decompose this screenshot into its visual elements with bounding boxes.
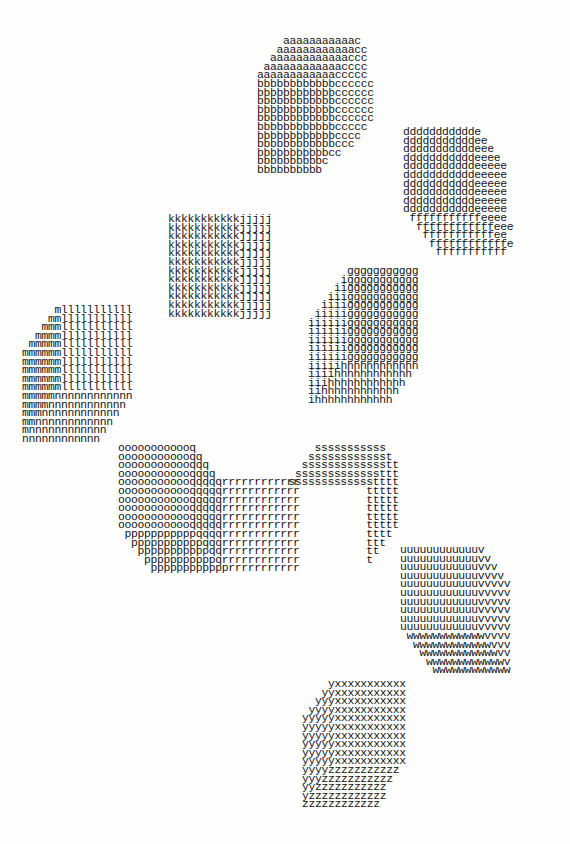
letter-row: kkkkkkkkkkkjjjjj — [168, 310, 272, 319]
letter-row: bbbbbbbbbb — [257, 166, 374, 175]
letter-row: pppppppppppprrrrrrrrrrr — [118, 564, 300, 573]
typewriter-art-page: aaaaaaaaaaac aaaaaaaaaaaacc aaaaaaaaaaaa… — [0, 0, 570, 844]
letter-row: ihhhhhhhhhhhh — [308, 396, 418, 405]
letter-row: wwwwwwwwwwww — [400, 666, 510, 675]
letter-block-mln: mlllllllllll mmlllllllllll mmmllllllllll… — [22, 306, 132, 444]
letter-block-gih: ggggggggggg iggggggggggg iiggggggggggg i… — [308, 267, 418, 405]
letter-row: fffffffffff — [403, 248, 513, 257]
letter-row: nnnnnnnnnnnn — [22, 435, 132, 444]
letter-row: zzzzzzzzzzzz — [302, 800, 406, 809]
letter-block-uvw: uuuuuuuuuuuuvuuuuuuuuuuuuvvuuuuuuuuuuuuv… — [400, 546, 510, 675]
letter-block-def: dddddddddddedddddddddddeedddddddddddeeed… — [403, 128, 513, 257]
letter-block-oqpr: oooooooooooqoooooooooooqqoooooooooooqqqo… — [118, 444, 300, 573]
letter-row: t — [282, 556, 399, 565]
letter-block-st: sssssssssss sssssssssssst ssssssssssssst… — [282, 444, 399, 564]
letter-block-kj: kkkkkkkkkkkjjjjjkkkkkkkkkkkjjjjjkkkkkkkk… — [168, 215, 272, 318]
letter-block-yxz: yxxxxxxxxxxx yyxxxxxxxxxxx yyyxxxxxxxxxx… — [302, 680, 406, 809]
letter-block-abc: aaaaaaaaaaac aaaaaaaaaaaacc aaaaaaaaaaaa… — [257, 37, 374, 175]
